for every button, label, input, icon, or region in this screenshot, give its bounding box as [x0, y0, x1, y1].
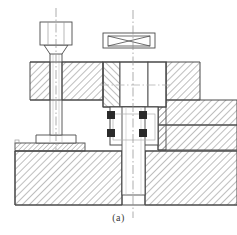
key-pin-top-right — [139, 111, 147, 119]
key-pin-bottom-left — [107, 129, 115, 137]
figure-caption: (a) — [0, 212, 237, 223]
key-pin-top-left — [107, 111, 115, 119]
sectional-assembly-svg — [0, 0, 237, 235]
technical-drawing-figure: (a) — [0, 0, 237, 235]
upper-right-plate — [166, 62, 200, 100]
mid-right-block — [158, 100, 237, 125]
upper-left-plate — [30, 62, 103, 100]
top-crossed-nut — [103, 33, 155, 48]
key-pin-bottom-right — [139, 129, 147, 137]
lower-right-block — [158, 125, 237, 150]
